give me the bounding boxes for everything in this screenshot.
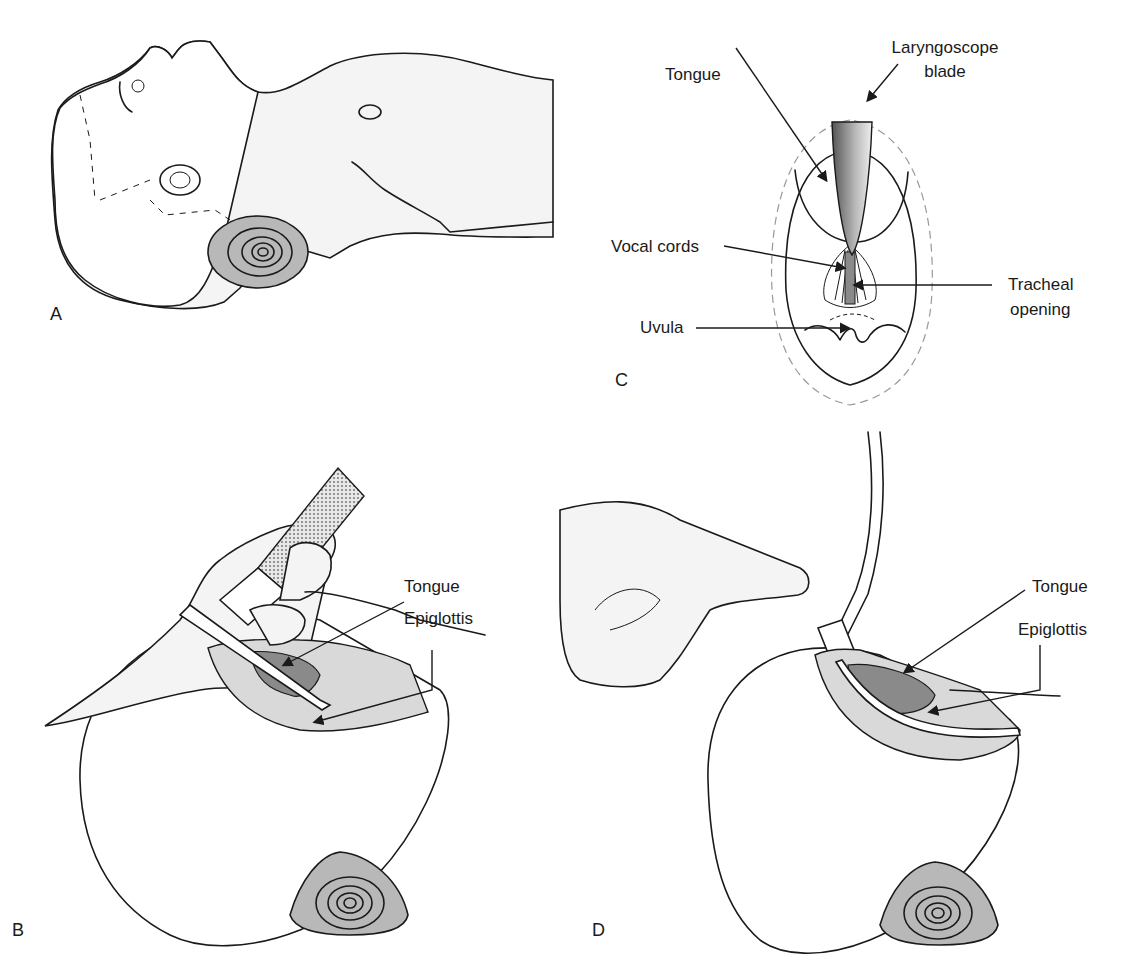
panel-a-illustration (52, 41, 553, 309)
label-uvula: Uvula (640, 318, 683, 338)
label-laryngoscope-blade-line1: Laryngoscope (870, 38, 1020, 58)
panel-d-illustration (560, 432, 1060, 953)
panel-c-illustration (696, 48, 992, 405)
label-epiglottis-b: Epiglottis (404, 609, 473, 629)
panel-letter-a: A (50, 304, 62, 325)
label-tracheal-opening-line2: opening (1010, 300, 1071, 320)
label-tongue-d: Tongue (1032, 577, 1088, 597)
tracheal-opening-c (845, 252, 855, 304)
label-laryngoscope-blade-line2: blade (870, 62, 1020, 82)
shoulder-roll-a (208, 216, 308, 288)
label-tongue-b: Tongue (404, 577, 460, 597)
panel-letter-d: D (592, 920, 605, 941)
laryngoscope-blade-c (832, 122, 872, 255)
panel-b-illustration (45, 468, 485, 946)
label-tongue-c: Tongue (665, 65, 721, 85)
label-tracheal-opening-line1: Tracheal (1008, 275, 1074, 295)
panel-letter-c: C (615, 370, 628, 391)
label-epiglottis-d: Epiglottis (1018, 620, 1087, 640)
label-vocal-cords: Vocal cords (611, 237, 699, 257)
figure-canvas (0, 0, 1127, 970)
panel-letter-b: B (12, 920, 24, 941)
